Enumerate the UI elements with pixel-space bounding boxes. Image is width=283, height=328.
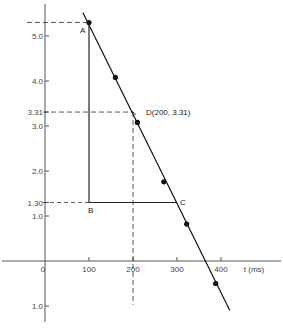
y-tick-label: 3.0 xyxy=(32,122,44,131)
y-tick-label: 2.0 xyxy=(32,167,44,176)
y-tick-label: 1.0 xyxy=(32,302,44,311)
data-point xyxy=(213,281,218,286)
point-b-label: B xyxy=(88,206,93,215)
data-point xyxy=(135,120,140,125)
plot-area: 0100200300400t (ms)5.04.03.313.02.01.301… xyxy=(0,0,283,328)
data-point xyxy=(86,20,91,25)
point-d-label: D(200, 3.31) xyxy=(146,108,191,117)
y-tick-label: 5.0 xyxy=(32,32,44,41)
data-point xyxy=(161,179,166,184)
chart: 0100200300400t (ms)5.04.03.313.02.01.301… xyxy=(0,0,283,328)
y-tick-label: 1.0 xyxy=(32,212,44,221)
x-tick-label: 0 xyxy=(41,265,46,274)
x-tick-label: 300 xyxy=(170,265,184,274)
data-point xyxy=(184,222,189,227)
x-axis-label: t (ms) xyxy=(244,265,265,274)
y-tick-label: 3.31 xyxy=(27,108,43,117)
x-tick-label: 100 xyxy=(82,265,96,274)
x-tick-label: 400 xyxy=(214,265,228,274)
y-tick-label: 1.30 xyxy=(27,199,43,208)
data-point xyxy=(113,75,118,80)
best-fit-line xyxy=(83,13,230,311)
y-tick-label: 4.0 xyxy=(32,77,44,86)
point-c-label: C xyxy=(180,198,186,207)
point-a-label: A xyxy=(80,26,86,35)
